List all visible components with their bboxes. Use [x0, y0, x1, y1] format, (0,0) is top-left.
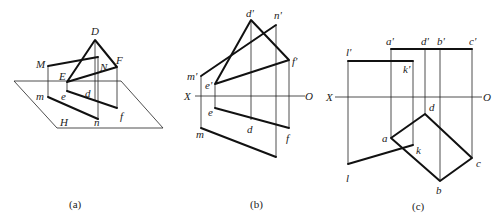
label-F: F — [115, 54, 123, 66]
panel-b: d' n' f' m' e' X O e m d f (b) — [183, 7, 313, 211]
label-H: H — [59, 116, 69, 128]
label-l-prime: l' — [346, 46, 352, 58]
label-n-prime: n' — [274, 9, 283, 21]
caption-b: (b) — [250, 198, 263, 211]
label-k-prime: k' — [403, 63, 411, 75]
label-N: N — [99, 61, 108, 73]
label-d-prime: d' — [246, 7, 255, 19]
label-b: b — [436, 184, 442, 196]
line-ef-projection — [67, 91, 117, 108]
label-f: f — [286, 132, 291, 144]
label-O: O — [483, 91, 491, 103]
label-d: d — [85, 87, 91, 99]
label-e-prime: e' — [205, 79, 213, 91]
projection-figure: D M E N F m e d f n H (a) d' n' f' m' e'… — [0, 0, 501, 219]
label-m-prime: m' — [187, 70, 198, 82]
triangle-def-front — [215, 20, 289, 84]
label-d: d — [247, 123, 253, 135]
label-b-prime: b' — [437, 35, 446, 47]
label-m: m — [196, 128, 204, 140]
label-D: D — [90, 25, 99, 37]
label-n: n — [94, 116, 100, 128]
label-e: e — [208, 106, 213, 118]
label-d: d — [429, 101, 435, 113]
label-f: f — [120, 110, 125, 122]
line-mn-projection — [48, 97, 98, 119]
panel-a: D M E N F m e d f n H (a) — [14, 25, 163, 211]
label-X: X — [325, 91, 334, 103]
label-E: E — [58, 70, 66, 82]
line-lk-top — [348, 145, 413, 164]
label-e: e — [61, 90, 66, 102]
caption-a: (a) — [69, 198, 82, 211]
line-mn-top — [201, 128, 276, 157]
label-f-prime: f' — [292, 55, 298, 67]
label-M: M — [35, 58, 46, 70]
label-a-prime: a' — [386, 35, 395, 47]
label-m: m — [36, 90, 44, 102]
label-c-prime: c' — [469, 35, 477, 47]
label-k: k — [416, 144, 422, 156]
label-d-prime: d' — [421, 35, 430, 47]
label-l: l — [346, 172, 349, 184]
label-c: c — [476, 157, 481, 169]
label-O: O — [305, 90, 313, 102]
label-a: a — [382, 132, 388, 144]
label-X: X — [183, 90, 192, 102]
caption-c: (c) — [412, 200, 425, 213]
panel-c: a' d' b' c' l' k' X O d a k c l b (c) — [325, 35, 491, 213]
diagram-canvas: D M E N F m e d f n H (a) d' n' f' m' e'… — [0, 0, 501, 219]
line-mn — [48, 57, 98, 66]
